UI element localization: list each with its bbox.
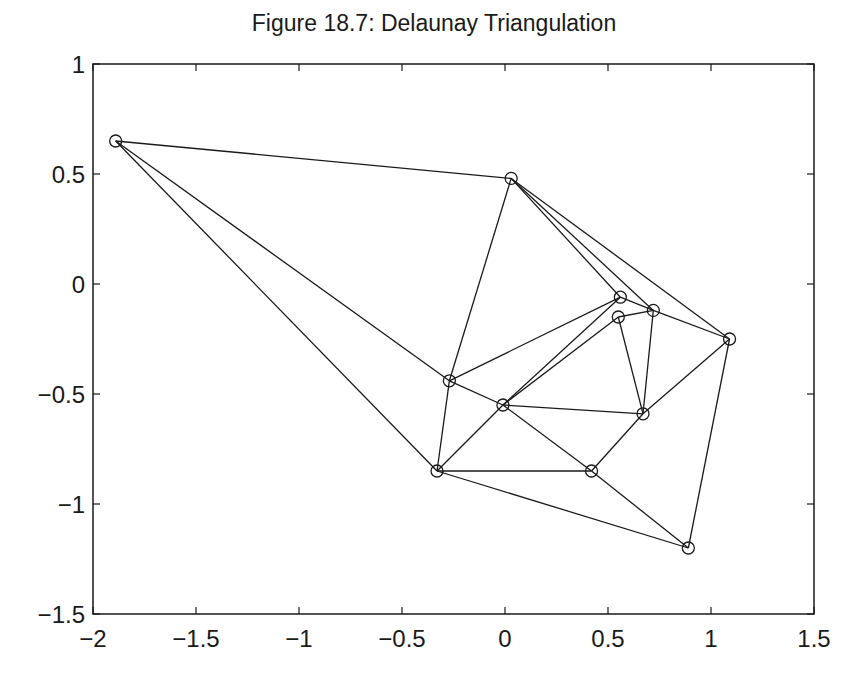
x-tick-label: 0.5 <box>591 625 624 652</box>
edge-B-C <box>511 178 620 297</box>
y-axis-tick-labels: 10.50−0.5−1−1.5 <box>38 51 85 628</box>
edge-C-E <box>620 297 653 310</box>
x-axis-tick-labels: −2−1.5−1−0.500.511.5 <box>79 625 830 652</box>
y-tick-label: 1 <box>72 51 85 78</box>
x-tick-label: −1.5 <box>172 625 219 652</box>
y-tick-label: −0.5 <box>38 381 85 408</box>
triangulation-edges <box>116 141 730 548</box>
x-tick-label: −2 <box>79 625 106 652</box>
y-tick-label: 0.5 <box>52 161 85 188</box>
x-tick-label: 1 <box>704 625 717 652</box>
edge-D-H <box>503 317 618 405</box>
x-tick-label: 1.5 <box>797 625 830 652</box>
plot-area: −2−1.5−1−0.500.511.5 10.50−0.5−1−1.5 <box>0 0 868 689</box>
edge-K-J <box>592 414 644 471</box>
y-tick-label: −1 <box>58 491 85 518</box>
edge-K-L <box>592 471 689 548</box>
edge-C-H <box>503 297 620 405</box>
edge-G-H <box>449 381 503 405</box>
edge-G-I <box>437 381 449 471</box>
edge-E-F <box>653 310 729 339</box>
edge-B-G <box>449 178 511 380</box>
x-tick-label: −0.5 <box>378 625 425 652</box>
x-tick-label: −1 <box>285 625 312 652</box>
y-tick-label: 0 <box>72 271 85 298</box>
axis-ticks <box>93 64 814 614</box>
x-tick-label: 0 <box>498 625 511 652</box>
edge-H-I <box>437 405 503 471</box>
edge-A-B <box>116 141 512 178</box>
edge-F-L <box>688 339 729 548</box>
data-points <box>110 135 736 554</box>
edge-I-L <box>437 471 688 548</box>
axes-frame <box>93 64 814 614</box>
y-tick-label: −1.5 <box>38 601 85 628</box>
edge-H-K <box>503 405 592 471</box>
edge-A-I <box>116 141 437 471</box>
edge-B-F <box>511 178 729 339</box>
edge-B-E <box>511 178 653 310</box>
edge-A-G <box>116 141 450 381</box>
edge-D-J <box>618 317 643 414</box>
edge-E-J <box>643 310 653 413</box>
edge-H-J <box>503 405 643 414</box>
edge-C-G <box>449 297 620 381</box>
